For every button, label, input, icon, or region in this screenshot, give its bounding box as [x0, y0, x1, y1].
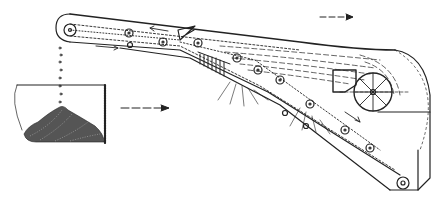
hopper	[333, 70, 356, 92]
motion-arrow-top	[320, 14, 353, 20]
falling-material	[59, 47, 62, 103]
conveyor-drawing	[0, 0, 440, 201]
particle-spray	[218, 82, 330, 134]
grate-bars	[198, 52, 230, 76]
conveyor-housing	[56, 14, 430, 190]
motion-arrow-left	[121, 105, 169, 111]
conveyor-diagram	[0, 0, 440, 201]
material-pile	[24, 106, 104, 142]
